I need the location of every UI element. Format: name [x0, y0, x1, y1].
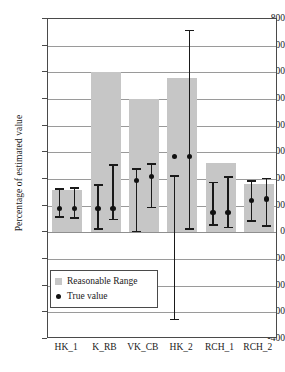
error-bar-HK_1-0	[54, 188, 66, 217]
error-bar-stem	[212, 182, 213, 226]
true-value-point-K_RB-0	[95, 206, 100, 211]
error-bar-cap-top	[262, 178, 271, 180]
error-bar-cap-bottom	[185, 228, 194, 230]
error-bar-stem	[151, 163, 152, 208]
error-bar-cap-bottom	[55, 216, 64, 218]
error-bar-cap-top	[247, 180, 256, 182]
gridline-500	[48, 99, 276, 100]
gridline--100	[48, 259, 276, 260]
true-value-point-VK_CB-1	[149, 174, 154, 179]
y-tick-mark--400	[42, 338, 47, 339]
error-bar-stem	[59, 188, 60, 217]
error-bar-stem	[174, 175, 175, 320]
error-bar-cap-bottom	[94, 228, 103, 230]
error-bar-cap-top	[147, 163, 156, 165]
error-bar-cap-bottom	[132, 231, 141, 233]
x-tick-K_RB: K_RB	[92, 342, 116, 352]
error-bar-cap-top	[55, 188, 64, 190]
legend-label-reasonable-range: Reasonable Range	[67, 276, 137, 286]
error-bar-cap-bottom	[70, 217, 79, 219]
true-value-point-RCH_1-0	[210, 210, 215, 215]
gridline-400	[48, 126, 276, 127]
legend-item-reasonable-range: Reasonable Range	[55, 274, 152, 289]
error-bar-cap-top	[224, 176, 233, 178]
error-bar-cap-bottom	[147, 207, 156, 209]
error-bar-cap-bottom	[170, 319, 179, 321]
error-bar-cap-bottom	[109, 219, 118, 221]
error-bar-stem	[74, 187, 75, 219]
error-bar-cap-top	[94, 184, 103, 186]
chart-legend: Reasonable Range True value	[50, 270, 158, 308]
x-tick-HK_2: HK_2	[170, 342, 193, 352]
true-value-point-VK_CB-0	[134, 178, 139, 183]
error-bar-cap-bottom	[247, 220, 256, 222]
error-bar-HK_1-1	[69, 187, 81, 219]
error-bar-cap-bottom	[224, 227, 233, 229]
x-tick-RCH_1: RCH_1	[205, 342, 234, 352]
error-bar-VK_CB-1	[145, 163, 157, 208]
gridline-300	[48, 152, 276, 153]
error-bar-stem	[112, 164, 113, 220]
error-bar-K_RB-1	[107, 164, 119, 220]
error-bar-cap-top	[132, 168, 141, 170]
y-axis-title: Percentage of estimated value	[14, 73, 24, 273]
true-value-point-RCH_1-1	[225, 210, 230, 215]
gridline-0	[48, 232, 276, 233]
error-bar-cap-top	[70, 187, 79, 189]
error-bar-HK_2-0	[169, 175, 181, 320]
plot-area: Reasonable Range True value	[47, 18, 277, 338]
error-bar-stem	[266, 178, 267, 227]
error-bar-RCH_1-1	[222, 176, 234, 228]
true-value-point-RCH_2-1	[264, 196, 269, 201]
error-bar-cap-top	[185, 30, 194, 32]
x-tick-VK_CB: VK_CB	[127, 342, 158, 352]
legend-item-true-value: True value	[55, 289, 152, 304]
error-bar-cap-top	[109, 164, 118, 166]
true-value-point-K_RB-1	[110, 206, 115, 211]
gridline--300	[48, 312, 276, 313]
gridline-700	[48, 46, 276, 47]
x-tick-RCH_2: RCH_2	[243, 342, 272, 352]
legend-label-true-value: True value	[67, 291, 108, 301]
error-bar-stem	[227, 176, 228, 228]
error-bar-RCH_2-1	[260, 178, 272, 227]
error-bar-cap-bottom	[209, 224, 218, 226]
error-bar-cap-top	[170, 175, 179, 177]
gridline-200	[48, 179, 276, 180]
error-bar-stem	[189, 30, 190, 230]
error-bar-cap-bottom	[262, 225, 271, 227]
true-value-point-RCH_2-0	[249, 198, 254, 203]
gridline-100	[48, 206, 276, 207]
error-bar-RCH_1-0	[207, 182, 219, 226]
error-bar-HK_2-1	[184, 30, 196, 230]
error-bar-cap-top	[209, 182, 218, 184]
chart-container: Percentage of estimated value 8007006005…	[0, 0, 285, 372]
range-swatch-icon	[55, 278, 62, 285]
true-value-dot-icon	[56, 294, 61, 299]
gridline-600	[48, 72, 276, 73]
x-tick-HK_1: HK_1	[55, 342, 78, 352]
